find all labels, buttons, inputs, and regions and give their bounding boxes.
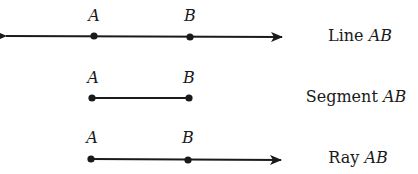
line-ab-stroke bbox=[6, 36, 282, 37]
line-label-a: A bbox=[88, 6, 100, 25]
ray-point-b-dot bbox=[184, 156, 191, 163]
caption-segment-word: Segment bbox=[306, 87, 378, 106]
ray-label-a: A bbox=[86, 128, 98, 147]
caption-line-word: Line bbox=[328, 26, 364, 45]
caption-segment-name: AB bbox=[383, 87, 406, 106]
caption-line-ab: Line AB bbox=[328, 26, 392, 45]
segment-ab-figure bbox=[88, 94, 192, 101]
caption-ray-word: Ray bbox=[328, 148, 359, 167]
ray-ab-figure bbox=[87, 155, 281, 163]
segment-label-a: A bbox=[87, 68, 99, 87]
caption-ray-ab: Ray AB bbox=[328, 148, 387, 167]
segment-label-b: B bbox=[183, 68, 195, 87]
ray-label-b: B bbox=[182, 128, 194, 147]
caption-segment-ab: Segment AB bbox=[306, 87, 406, 106]
caption-line-name: AB bbox=[369, 26, 392, 45]
segment-point-a-dot bbox=[88, 94, 95, 101]
segment-point-b-dot bbox=[185, 94, 192, 101]
line-ab-figure bbox=[6, 32, 282, 40]
line-point-b-dot bbox=[186, 33, 193, 40]
ray-point-a-dot bbox=[87, 155, 94, 162]
line-label-b: B bbox=[184, 6, 196, 25]
line-point-a-dot bbox=[90, 32, 97, 39]
caption-ray-name: AB bbox=[364, 148, 387, 167]
